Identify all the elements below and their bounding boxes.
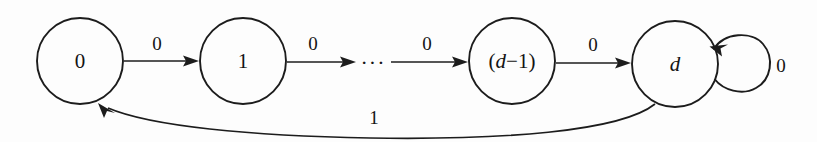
- transition-return-curve-d-to-0[interactable]: [108, 104, 655, 138]
- state-label-d-minus-1-variable: d: [496, 49, 507, 73]
- transition-label-return-curve-d-to-0: 1: [369, 108, 379, 127]
- transition-label-0-to-1: 0: [152, 34, 162, 53]
- state-label-d-minus-1-paren-open: (: [489, 49, 496, 73]
- state-diagram-canvas: [0, 0, 817, 142]
- state-label-d-minus-1: (d−1): [489, 51, 536, 72]
- ellipsis-label: ···: [361, 52, 386, 74]
- state-label-0: 0: [75, 51, 86, 72]
- state-label-d-minus-1-operator: −: [506, 49, 518, 73]
- transition-label-d-minus-1-to-d: 0: [588, 35, 598, 54]
- transition-self-loop-d[interactable]: [714, 35, 771, 91]
- transition-label-1-to-ellipsis: 0: [308, 34, 318, 53]
- state-label-d: d: [670, 54, 681, 75]
- transition-label-self-loop-d: 0: [776, 56, 786, 75]
- transition-label-ellipsis-to-d-minus-1: 0: [422, 34, 432, 53]
- state-diagram: 0 1 (d−1) d ··· 0 0 0 0 0 1: [0, 0, 817, 142]
- state-label-d-minus-1-number: 1: [518, 49, 529, 73]
- state-label-d-minus-1-paren-close: ): [528, 49, 535, 73]
- state-label-1: 1: [238, 51, 249, 72]
